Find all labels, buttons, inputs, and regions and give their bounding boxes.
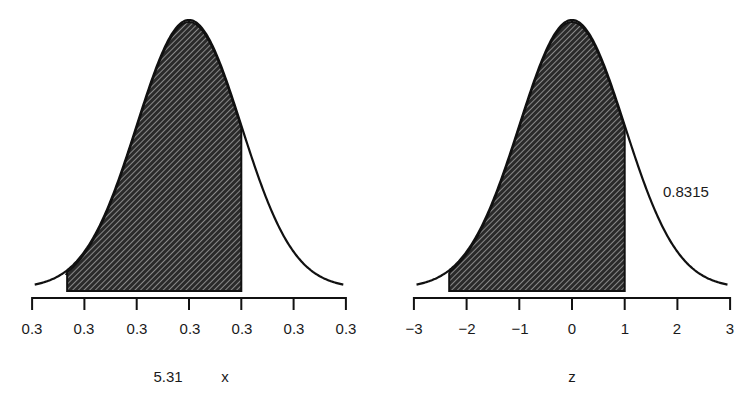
right-standard-normal-chart: [414, 20, 730, 310]
left-tick-label: 0.3: [180, 320, 201, 337]
shaded-area-annotation: 0.8315: [663, 183, 709, 200]
right-tick-label: 3: [726, 320, 734, 337]
left-tick-label: 0.3: [232, 320, 253, 337]
left-axis-title: x: [221, 368, 229, 385]
shaded-area: [449, 22, 624, 291]
left-tick-label: 0.3: [127, 320, 148, 337]
left-tick-label: 0.3: [336, 320, 357, 337]
right-tick-label: 2: [673, 320, 681, 337]
right-tick-label: 0: [568, 320, 576, 337]
right-tick-label: −1: [511, 320, 528, 337]
left-axis-value: 5.31: [153, 368, 182, 385]
left-normal-curve-chart: [32, 20, 346, 310]
left-tick-label: 0.3: [22, 320, 43, 337]
shaded-area: [67, 22, 241, 291]
left-tick-label: 0.3: [74, 320, 95, 337]
right-axis-title: z: [568, 368, 576, 385]
right-tick-label: −2: [458, 320, 475, 337]
left-tick-label: 0.3: [284, 320, 305, 337]
right-tick-label: 1: [621, 320, 629, 337]
right-tick-label: −3: [405, 320, 422, 337]
charts-canvas: [0, 0, 748, 407]
